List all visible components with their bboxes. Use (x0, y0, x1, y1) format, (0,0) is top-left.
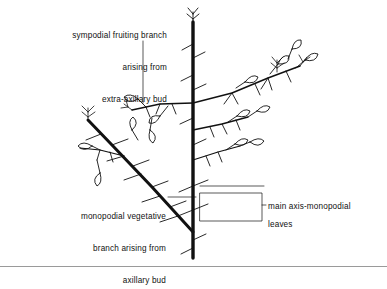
leaves-bracket-box (200, 193, 262, 221)
label-leaves: leaves (268, 199, 293, 252)
branch-lower-right (193, 146, 240, 160)
figure-bottom-rule (0, 266, 387, 267)
sympodial-branch-mid-right (193, 117, 248, 130)
label-monopodial-line2: branch arising from (38, 244, 166, 255)
label-sympodial-line3: extra-axillary bud (22, 95, 167, 106)
label-monopodial-line1: monopodial vegetative (38, 212, 166, 223)
label-sympodial-line2: arising from (22, 63, 167, 74)
label-sympodial-line1: sympodial fruiting branch (22, 31, 167, 42)
leaf-group-mid-right (228, 106, 270, 122)
label-monopodial-branch: monopodial vegetative branch arising fro… (38, 191, 166, 289)
apex-bud-cluster (187, 8, 199, 22)
sympodial-branch-upper (193, 66, 300, 103)
label-leaves-line1: leaves (268, 220, 293, 231)
label-monopodial-line3: axillary bud (38, 276, 166, 287)
label-sympodial-branch: sympodial fruiting branch arising from e… (22, 10, 167, 127)
